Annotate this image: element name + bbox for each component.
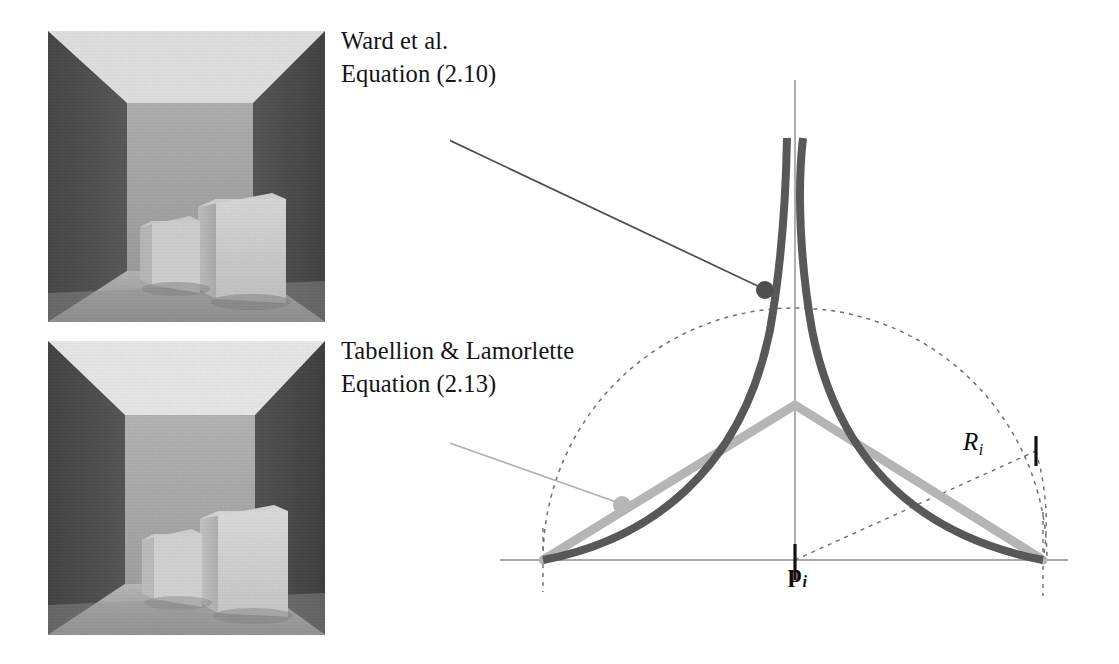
weighting-function-plot: [450, 40, 1110, 640]
tabellion-render-image: [48, 341, 325, 635]
point-label: pi: [788, 560, 807, 591]
ward-marker-dot: [756, 281, 774, 299]
point-symbol: p: [788, 560, 802, 587]
radius-label: Ri: [963, 428, 983, 459]
radius-subscript: i: [979, 441, 983, 458]
radius-closing-arc: [1036, 451, 1046, 560]
tabellion-scene-svg: [48, 341, 325, 635]
tabellion-marker-dot: [613, 496, 631, 514]
ward-leader-line: [450, 115, 762, 288]
figure-root: Ward et al. Equation (2.10) Tabellion & …: [0, 0, 1119, 664]
ward-render-image: [48, 31, 325, 322]
ward-scene-svg: [48, 31, 325, 322]
point-subscript: i: [802, 573, 806, 590]
tabellion-leader-line: [450, 424, 619, 503]
radius-symbol: R: [963, 428, 978, 455]
ward-curve-right-branch: [800, 138, 1043, 560]
